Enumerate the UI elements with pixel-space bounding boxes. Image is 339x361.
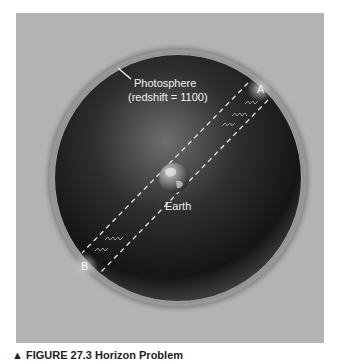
figure-caption: ▲ FIGURE 27.3 Horizon Problem xyxy=(12,349,183,361)
earth-label: Earth xyxy=(165,200,191,213)
point-b-label: B xyxy=(81,260,88,273)
earth-icon xyxy=(159,163,189,193)
redshift-label: (redshift = 1100) xyxy=(128,91,208,104)
point-a-label: A xyxy=(257,83,264,96)
photosphere-label: Photosphere xyxy=(134,77,196,90)
